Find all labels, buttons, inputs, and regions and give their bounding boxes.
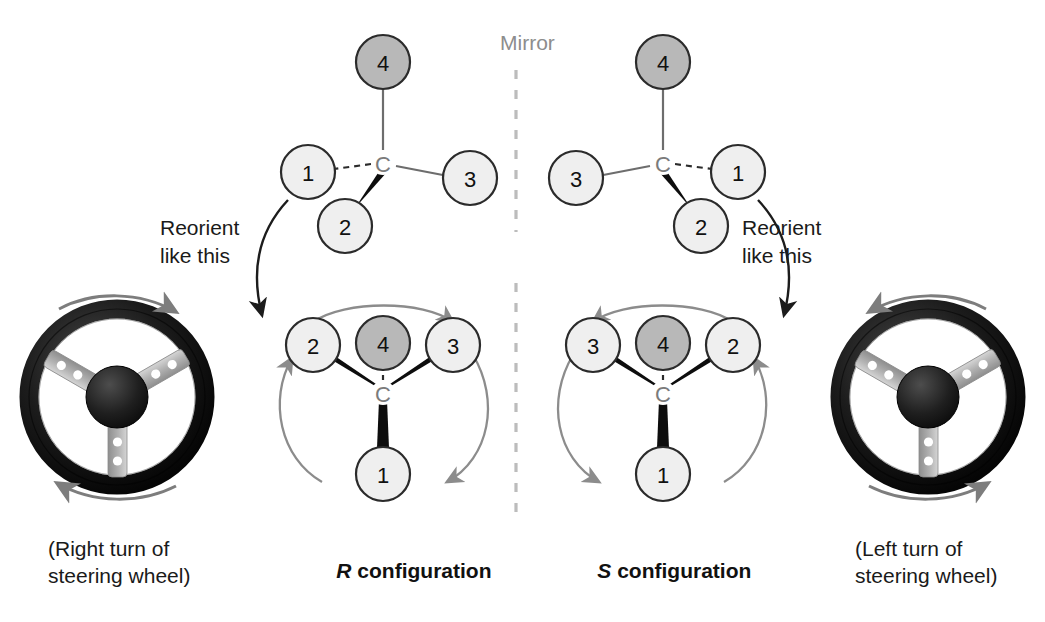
node-1-right-label: 1 bbox=[732, 161, 744, 186]
node-2-reoriented-right-label: 2 bbox=[727, 334, 739, 359]
node-1-reoriented-label: 1 bbox=[377, 463, 389, 488]
node-3-label: 3 bbox=[464, 167, 476, 192]
left-steering-wheel bbox=[29, 296, 205, 499]
rotation-arc-3-to-1 bbox=[447, 355, 488, 482]
node-2-label: 2 bbox=[339, 215, 351, 240]
node-1-reoriented-right-label: 1 bbox=[657, 463, 669, 488]
node-4-right-label: 4 bbox=[657, 51, 669, 76]
right-tetrahedral-structure: 4 3 1 2 C bbox=[549, 35, 765, 253]
wheel-hub bbox=[86, 366, 148, 428]
node-4-label: 4 bbox=[377, 51, 389, 76]
wheel-hub-right bbox=[897, 366, 959, 428]
node-4-reoriented-label: 4 bbox=[377, 332, 389, 357]
node-3-reoriented-label: 3 bbox=[447, 334, 459, 359]
node-1-label: 1 bbox=[302, 161, 314, 186]
node-2-reoriented-label: 2 bbox=[307, 334, 319, 359]
left-tetrahedral-structure: 4 1 3 2 C bbox=[281, 35, 497, 253]
left-reorient-arrow bbox=[257, 200, 288, 315]
bond-c-to-bottom-wedge-right bbox=[657, 400, 669, 448]
right-steering-wheel bbox=[840, 296, 1016, 499]
bond-c-to-bottom-wedge bbox=[377, 400, 389, 448]
node-4-reoriented-right-label: 4 bbox=[657, 332, 669, 357]
bond-c-to-3 bbox=[396, 166, 448, 176]
node-3-reoriented-right-label: 3 bbox=[587, 334, 599, 359]
left-reoriented-structure: 2 4 3 1 C bbox=[280, 306, 488, 502]
rotation-arc-1-to-2 bbox=[280, 358, 322, 482]
right-reorient-arrow bbox=[758, 200, 789, 315]
rotation-arc-1-to-2-right bbox=[724, 358, 766, 482]
rotation-arc-3-to-1-right bbox=[558, 355, 599, 482]
carbon-center-label-reoriented-right: C bbox=[655, 382, 671, 407]
figure-graphics: 4 1 3 2 C 2 bbox=[0, 0, 1045, 622]
carbon-center-label-right: C bbox=[655, 152, 671, 177]
stereochemistry-figure: Mirror Reorient like this Reorient like … bbox=[0, 0, 1045, 622]
bond-c-to-3-right bbox=[598, 166, 650, 176]
node-2-right-label: 2 bbox=[695, 215, 707, 240]
right-reoriented-structure: 3 4 2 1 C bbox=[558, 306, 766, 502]
carbon-center-label-reoriented: C bbox=[375, 382, 391, 407]
node-3-right-label: 3 bbox=[570, 167, 582, 192]
carbon-center-label: C bbox=[375, 152, 391, 177]
